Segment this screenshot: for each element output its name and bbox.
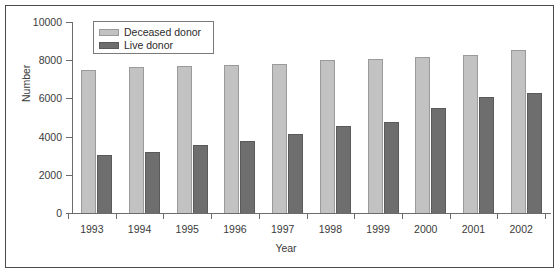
y-axis-tick	[66, 60, 72, 61]
x-axis-tick	[68, 213, 69, 219]
legend-item-deceased: Deceased donor	[99, 26, 208, 38]
bar-2001-deceased	[463, 55, 478, 213]
y-axis-tick-label: 8000	[6, 55, 62, 66]
bar-1994-live	[145, 152, 160, 213]
x-axis-tick	[211, 213, 212, 219]
y-axis-tick-label: 2000	[6, 170, 62, 181]
y-axis-tick-label: 6000	[6, 93, 62, 104]
bar-1995-live	[193, 145, 208, 213]
y-axis-tick	[66, 213, 72, 214]
x-axis-tick	[354, 213, 355, 219]
bar-1998-live	[336, 126, 351, 213]
legend-swatch-deceased-icon	[99, 29, 119, 36]
x-axis-tick	[450, 213, 451, 219]
y-axis-tick	[66, 137, 72, 138]
bar-1996-live	[240, 141, 255, 213]
bar-1993-live	[97, 155, 112, 213]
x-axis-title: Year	[6, 242, 560, 254]
y-axis-tick	[66, 175, 72, 176]
chart-legend: Deceased donor Live donor	[93, 21, 214, 54]
x-axis-tick	[497, 213, 498, 219]
y-axis-tick	[66, 98, 72, 99]
x-axis-tick-label-2002: 2002	[491, 224, 551, 235]
x-axis-tick	[116, 213, 117, 219]
y-axis-tick-label: 4000	[6, 132, 62, 143]
bar-1996-deceased	[224, 65, 239, 213]
bar-1994-deceased	[129, 67, 144, 213]
legend-label-live: Live donor	[124, 40, 173, 51]
chart-frame: Number Year 0200040006000800010000 19931…	[5, 5, 554, 268]
bar-1997-deceased	[272, 64, 287, 213]
bar-2000-live	[431, 108, 446, 213]
y-axis-tick-label: 10000	[6, 17, 62, 28]
x-axis-tick	[402, 213, 403, 219]
legend-item-live: Live donor	[99, 39, 208, 51]
legend-swatch-live-icon	[99, 42, 119, 49]
bar-1999-deceased	[368, 59, 383, 213]
x-axis-tick	[545, 213, 546, 219]
bar-1997-live	[288, 134, 303, 213]
bar-2002-deceased	[511, 50, 526, 213]
x-axis-tick	[307, 213, 308, 219]
y-axis-tick-label: 0	[6, 208, 62, 219]
bar-1999-live	[384, 122, 399, 213]
x-axis-line	[72, 213, 551, 214]
legend-label-deceased: Deceased donor	[124, 27, 201, 38]
bar-2002-live	[527, 93, 542, 213]
x-axis-tick	[163, 213, 164, 219]
bar-2001-live	[479, 97, 494, 213]
bar-2000-deceased	[415, 57, 430, 213]
bar-1995-deceased	[177, 66, 192, 213]
bar-1998-deceased	[320, 60, 335, 213]
x-axis-tick	[259, 213, 260, 219]
y-axis-tick	[66, 22, 72, 23]
bar-1993-deceased	[81, 70, 96, 213]
